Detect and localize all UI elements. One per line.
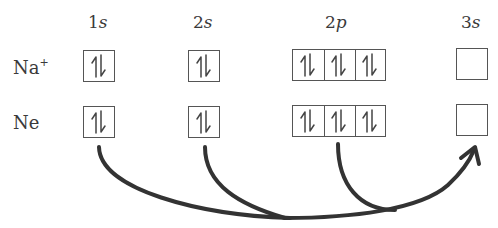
arrows-layer (0, 0, 498, 228)
spin-pair-icon (363, 54, 376, 76)
spin-pair-icon (301, 54, 314, 76)
arrow-from-1s (99, 147, 290, 218)
spin-pair-icon (363, 110, 376, 132)
spin-pair-icon (92, 111, 105, 133)
arrow-from-2s (205, 147, 285, 218)
spin-pair-icon (197, 111, 210, 133)
transition-arrows (99, 144, 479, 218)
spin-pair-icon (332, 54, 345, 76)
arrow-from-2p (338, 144, 395, 210)
spin-pair-icon (301, 110, 314, 132)
spin-pair-icon (92, 55, 105, 77)
spin-pair-icon (197, 55, 210, 77)
orbital-diagram: 1s 2s 2p 3s Na+ Ne (0, 0, 498, 228)
spin-pair-icon (332, 110, 345, 132)
